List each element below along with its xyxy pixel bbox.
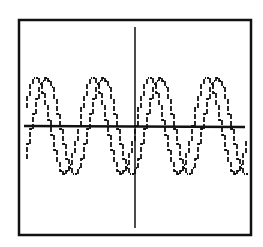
calculator-graph-screen xyxy=(0,0,263,247)
